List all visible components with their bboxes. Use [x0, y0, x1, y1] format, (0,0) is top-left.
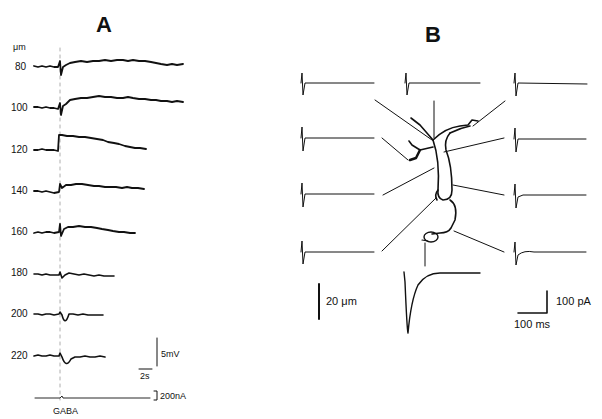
trace-80um: [34, 60, 183, 75]
recording-site-pointers: [375, 100, 505, 266]
trace-b-r3-right: [514, 184, 586, 208]
neuron-drawing: [409, 118, 478, 242]
trace-b-r4-right: [514, 242, 586, 265]
scale-bar-current: [154, 391, 157, 400]
gaba-current-trace: [35, 396, 150, 398]
trace-160um: [34, 224, 135, 236]
scale-bar-current-time: [518, 291, 547, 313]
trace-b-r3-left: [301, 183, 374, 207]
trace-220um: [34, 353, 105, 364]
trace-b-r2-right: [514, 128, 586, 152]
trace-b-r2-left: [301, 127, 374, 151]
trace-b-r1-mid: [405, 73, 480, 95]
trace-200um: [34, 312, 103, 321]
trace-b-r1-right: [514, 73, 587, 96]
somatic-current-trace: [404, 272, 480, 333]
trace-180um: [34, 272, 114, 278]
trace-b-r1-left: [301, 73, 374, 95]
trace-100um: [34, 96, 183, 115]
trace-120um: [34, 135, 146, 151]
trace-b-r4-left: [301, 241, 374, 264]
figure-drawing: [0, 0, 602, 419]
trace-140um: [34, 184, 144, 193]
